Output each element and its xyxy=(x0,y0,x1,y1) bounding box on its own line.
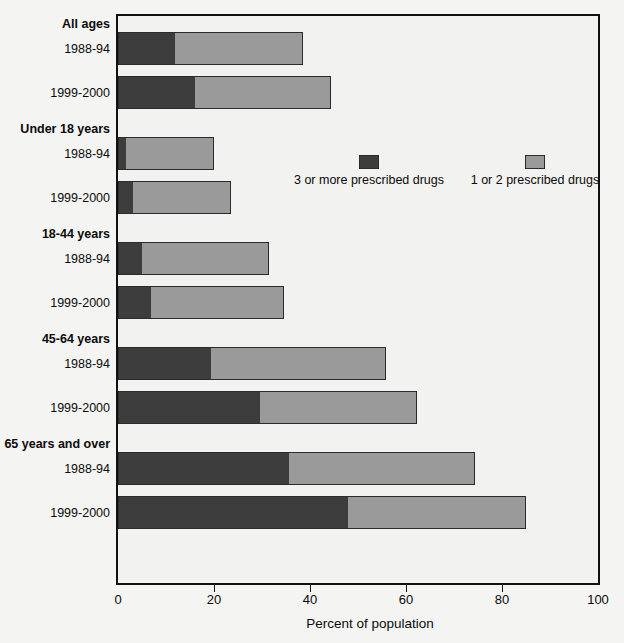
row-label-1-1: 1999-2000 xyxy=(0,192,110,205)
bar-segment-three-or-more xyxy=(118,32,175,65)
row-label-3-0: 1988-94 xyxy=(0,358,110,371)
row-label-0-1: 1999-2000 xyxy=(0,87,110,100)
bar-4-0 xyxy=(118,452,475,485)
bar-segment-three-or-more xyxy=(118,391,260,424)
bar-1-1 xyxy=(118,181,231,214)
bar-segment-three-or-more xyxy=(118,452,289,485)
bar-segment-one-or-two xyxy=(289,452,475,485)
legend-item-0: 3 or more prescribed drugs xyxy=(284,155,454,187)
group-label-4: 65 years and over xyxy=(0,438,110,451)
bar-segment-one-or-two xyxy=(126,137,214,170)
bar-2-0 xyxy=(118,242,269,275)
row-label-2-1: 1999-2000 xyxy=(0,297,110,310)
bar-2-1 xyxy=(118,286,284,319)
bar-segment-three-or-more xyxy=(118,137,126,170)
prescription-drug-use-bar-chart: All ages1988-941999-2000Under 18 years19… xyxy=(0,0,624,643)
bar-segment-one-or-two xyxy=(175,32,304,65)
group-label-2: 18-44 years xyxy=(0,228,110,241)
bar-segment-three-or-more xyxy=(118,242,142,275)
group-label-1: Under 18 years xyxy=(0,123,110,136)
x-tick-label-100: 100 xyxy=(587,592,609,607)
bar-segment-one-or-two xyxy=(142,242,269,275)
x-tick-80 xyxy=(502,585,503,592)
x-axis-title: Percent of population xyxy=(0,616,624,631)
group-label-0: All ages xyxy=(0,18,110,31)
bar-segment-one-or-two xyxy=(133,181,231,214)
x-tick-label-20: 20 xyxy=(207,592,221,607)
bar-segment-one-or-two xyxy=(348,496,526,529)
group-label-3: 45-64 years xyxy=(0,333,110,346)
y-axis-labels: All ages1988-941999-2000Under 18 years19… xyxy=(0,14,110,585)
x-axis-tick-labels: 020406080100 xyxy=(0,592,624,610)
bar-3-1 xyxy=(118,391,417,424)
legend-label-0: 3 or more prescribed drugs xyxy=(284,173,454,187)
x-tick-label-40: 40 xyxy=(303,592,317,607)
bar-0-1 xyxy=(118,76,331,109)
bar-3-0 xyxy=(118,347,386,380)
bar-1-0 xyxy=(118,137,214,170)
row-label-4-0: 1988-94 xyxy=(0,463,110,476)
row-label-2-0: 1988-94 xyxy=(0,253,110,266)
row-label-0-0: 1988-94 xyxy=(0,43,110,56)
bar-segment-three-or-more xyxy=(118,181,133,214)
bar-segment-three-or-more xyxy=(118,76,195,109)
row-label-1-0: 1988-94 xyxy=(0,148,110,161)
bar-segment-one-or-two xyxy=(151,286,284,319)
x-tick-40 xyxy=(310,585,311,592)
chart-legend: 3 or more prescribed drugs1 or 2 prescri… xyxy=(284,155,600,197)
bar-4-1 xyxy=(118,496,526,529)
x-tick-60 xyxy=(406,585,407,592)
legend-item-1: 1 or 2 prescribed drugs xyxy=(460,155,610,187)
row-label-4-1: 1999-2000 xyxy=(0,507,110,520)
x-tick-label-80: 80 xyxy=(495,592,509,607)
legend-swatch-0 xyxy=(359,155,379,169)
legend-label-1: 1 or 2 prescribed drugs xyxy=(460,173,610,187)
bar-0-0 xyxy=(118,32,303,65)
bar-segment-three-or-more xyxy=(118,347,211,380)
x-tick-label-60: 60 xyxy=(399,592,413,607)
bars-layer xyxy=(118,16,598,583)
bar-segment-one-or-two xyxy=(260,391,417,424)
x-tick-20 xyxy=(214,585,215,592)
bar-segment-one-or-two xyxy=(211,347,386,380)
x-axis-title-text: Percent of population xyxy=(306,616,434,631)
x-tick-label-0: 0 xyxy=(114,592,121,607)
bar-segment-three-or-more xyxy=(118,496,348,529)
row-label-3-1: 1999-2000 xyxy=(0,402,110,415)
legend-swatch-1 xyxy=(525,155,545,169)
bar-segment-one-or-two xyxy=(195,76,331,109)
bar-segment-three-or-more xyxy=(118,286,151,319)
